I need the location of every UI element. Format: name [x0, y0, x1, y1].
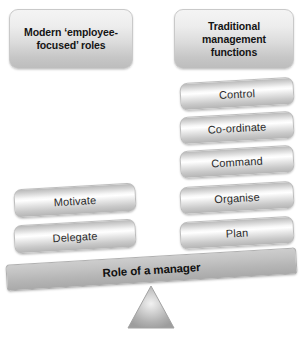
bar-motivate: Motivate — [13, 183, 136, 219]
bar-command: Command — [179, 145, 294, 179]
manager-role-seesaw-diagram: Modern ‘employee- focused’ roles Traditi… — [0, 0, 302, 337]
bar-motivate-label: Motivate — [54, 193, 97, 207]
bar-delegate-label: Delegate — [52, 229, 97, 243]
bar-control: Control — [179, 77, 294, 111]
bar-organise-label: Organise — [214, 191, 260, 206]
bar-control-label: Control — [219, 87, 256, 101]
bar-co-ordinate: Co-ordinate — [179, 111, 294, 145]
bar-delegate: Delegate — [13, 219, 136, 255]
header-left-label: Modern ‘employee- focused’ roles — [18, 26, 124, 52]
triangle-icon — [127, 285, 175, 329]
header-right-label: Traditional management functions — [196, 20, 272, 59]
header-box-traditional-functions: Traditional management functions — [174, 9, 294, 69]
bar-plan: Plan — [179, 216, 294, 250]
bar-co-ordinate-label: Co-ordinate — [207, 120, 266, 135]
bar-plan-label: Plan — [225, 226, 248, 239]
bar-organise: Organise — [179, 181, 294, 215]
seesaw-plank-label: Role of a manager — [102, 261, 201, 279]
bar-command-label: Command — [211, 155, 263, 170]
header-box-modern-roles: Modern ‘employee- focused’ roles — [9, 9, 133, 69]
